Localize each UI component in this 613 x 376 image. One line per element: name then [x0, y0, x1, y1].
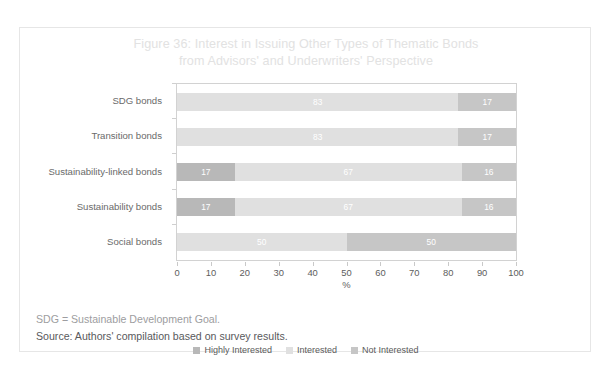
- x-axis-tick-label-1: 10: [206, 267, 216, 278]
- bar-segment[interactable]: 17: [458, 93, 516, 111]
- bar-value-label: 83: [313, 97, 322, 107]
- y-axis-tick-4: [172, 224, 176, 225]
- bar-row[interactable]: 176716: [177, 163, 516, 181]
- x-axis-tick-label-2: 20: [240, 267, 250, 278]
- bar-segment[interactable]: 50: [177, 233, 347, 251]
- bars-layer: 831783171767161767165050: [177, 84, 516, 260]
- figure-title: Figure 36: Interest in Issuing Other Typ…: [20, 36, 592, 70]
- x-axis-tick-mark-2: [245, 262, 246, 266]
- legend-swatch-icon: [286, 347, 293, 354]
- x-axis-tick-mark-7: [414, 262, 415, 266]
- x-axis-tick-mark-0: [177, 262, 178, 266]
- legend-swatch-icon: [193, 347, 200, 354]
- x-axis-tick-mark-5: [347, 262, 348, 266]
- bar-segment[interactable]: 16: [462, 163, 516, 181]
- y-axis-tick-1: [172, 118, 176, 119]
- legend-label: Interested: [297, 345, 337, 355]
- bar-value-label: 17: [201, 202, 210, 212]
- bar-segment[interactable]: 67: [235, 163, 462, 181]
- legend-label: Not Interested: [362, 345, 419, 355]
- bar-segment[interactable]: 83: [177, 128, 458, 146]
- y-axis-label-2: Sustainability-linked bonds: [16, 166, 162, 177]
- x-axis-tick-label-4: 40: [307, 267, 317, 278]
- bar-value-label: 83: [313, 132, 322, 142]
- bar-segment[interactable]: 67: [235, 198, 462, 216]
- x-axis-tick-label-5: 50: [341, 267, 351, 278]
- bar-value-label: 50: [427, 237, 436, 247]
- x-axis-tick-label-7: 70: [409, 267, 419, 278]
- figure-title-line-1: Figure 36: Interest in Issuing Other Typ…: [20, 36, 592, 53]
- x-axis-tick-mark-9: [482, 262, 483, 266]
- bar-row[interactable]: 8317: [177, 93, 516, 111]
- bar-segment[interactable]: 17: [177, 163, 235, 181]
- x-axis-tick-mark-8: [448, 262, 449, 266]
- x-axis-tick-mark-10: [516, 262, 517, 266]
- legend-item-1[interactable]: Interested: [286, 345, 337, 355]
- bar-segment[interactable]: 50: [347, 233, 517, 251]
- y-axis-label-4: Social bonds: [16, 236, 162, 247]
- bar-segment[interactable]: 16: [462, 198, 516, 216]
- y-axis-label-1: Transition bonds: [16, 130, 162, 141]
- legend-item-2[interactable]: Not Interested: [351, 345, 419, 355]
- bar-value-label: 16: [484, 202, 493, 212]
- legend-label: Highly Interested: [204, 345, 272, 355]
- chart-legend: Highly InterestedInterestedNot Intereste…: [20, 345, 592, 355]
- bar-value-label: 17: [201, 167, 210, 177]
- bar-segment[interactable]: 17: [458, 128, 516, 146]
- y-axis-category-labels: SDG bondsTransition bondsSustainability-…: [20, 83, 170, 261]
- bar-segment[interactable]: 83: [177, 93, 458, 111]
- bar-row[interactable]: 5050: [177, 233, 516, 251]
- bar-value-label: 50: [257, 237, 266, 247]
- chart-area: SDG bondsTransition bondsSustainability-…: [20, 83, 592, 298]
- x-axis-tick-label-10: 100: [508, 267, 524, 278]
- bar-segment[interactable]: 17: [177, 198, 235, 216]
- x-axis-title: %: [176, 279, 517, 290]
- x-axis-tick-label-9: 90: [477, 267, 487, 278]
- bar-value-label: 67: [344, 167, 353, 177]
- x-axis-tick-mark-3: [279, 262, 280, 266]
- x-axis-tick-label-6: 60: [375, 267, 385, 278]
- note-abbreviation: SDG = Sustainable Development Goal.: [36, 311, 576, 328]
- y-axis-tick-2: [172, 153, 176, 154]
- y-axis-label-3: Sustainability bonds: [16, 201, 162, 212]
- x-axis-tick-mark-1: [211, 262, 212, 266]
- legend-item-0[interactable]: Highly Interested: [193, 345, 272, 355]
- y-axis-tick-3: [172, 189, 176, 190]
- figure-title-line-2: from Advisors' and Underwriters' Perspec…: [20, 53, 592, 70]
- bar-value-label: 17: [483, 97, 492, 107]
- bar-row[interactable]: 176716: [177, 198, 516, 216]
- bar-value-label: 17: [483, 132, 492, 142]
- x-axis-tick-label-3: 30: [273, 267, 283, 278]
- y-axis-label-0: SDG bonds: [16, 95, 162, 106]
- note-source: Source: Authors' compilation based on su…: [36, 328, 576, 345]
- x-axis-tick-mark-6: [380, 262, 381, 266]
- y-axis-tick-0: [172, 83, 176, 84]
- figure-notes: SDG = Sustainable Development Goal. Sour…: [36, 311, 576, 345]
- x-axis-tick-mark-4: [313, 262, 314, 266]
- x-axis-tick-label-0: 0: [174, 267, 179, 278]
- figure-card: Figure 36: Interest in Issuing Other Typ…: [19, 27, 591, 352]
- bar-row[interactable]: 8317: [177, 128, 516, 146]
- bar-value-label: 16: [484, 167, 493, 177]
- legend-swatch-icon: [351, 347, 358, 354]
- x-axis-tick-label-8: 80: [443, 267, 453, 278]
- bar-value-label: 67: [344, 202, 353, 212]
